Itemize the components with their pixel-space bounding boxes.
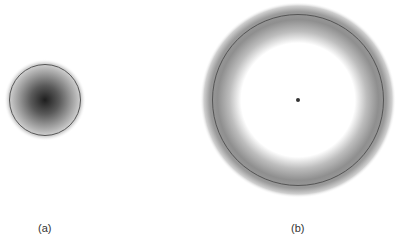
center-dot (296, 98, 300, 102)
gradient-disk (4, 59, 86, 141)
panel-a (4, 59, 86, 141)
figure-canvas (0, 0, 403, 245)
panel-b-label: (b) (291, 222, 304, 234)
panel-b (200, 2, 396, 198)
panel-a-label: (a) (38, 222, 51, 234)
